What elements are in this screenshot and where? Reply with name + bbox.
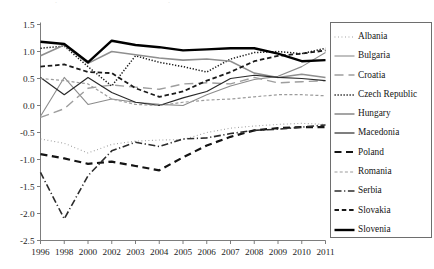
legend-item-label: Poland — [358, 148, 384, 157]
legend-item-label: Romania — [358, 167, 392, 176]
legend-line-swatch — [334, 186, 355, 196]
x-axis-tick-label: 2007 — [221, 247, 240, 257]
y-axis-tick-label: -0.5 — [20, 128, 35, 138]
y-axis-tick-label: -2.0 — [20, 209, 35, 219]
y-axis-tick-label: -2.5 — [20, 236, 35, 246]
legend-line-swatch — [334, 147, 355, 157]
legend-item-albania[interactable]: Albania — [334, 27, 431, 46]
x-axis-tick-label: 2008 — [245, 247, 264, 257]
series-line-poland — [41, 127, 326, 170]
legend-item-label: Albania — [358, 32, 387, 41]
legend-item-bulgaria[interactable]: Bulgaria — [334, 46, 431, 65]
series-line-slovenia — [41, 41, 326, 63]
y-axis-tick-labels: 1.51.00.50.0-0.5-1.0-1.5-2.0-2.5 — [20, 20, 35, 246]
x-axis-tick-label: 2011 — [316, 247, 334, 257]
series-line-serbia — [41, 125, 326, 219]
x-axis-tick-labels: 1996199820002002200320042005200620072008… — [31, 247, 335, 257]
series-line-albania — [41, 123, 326, 153]
x-axis-tick-label: 2005 — [174, 247, 193, 257]
legend-item-slovakia[interactable]: Slovakia — [334, 201, 431, 220]
series-layer — [41, 41, 326, 219]
legend-item-label: Macedonia — [358, 128, 399, 137]
y-axis-tick-label: 0.0 — [23, 101, 35, 111]
x-axis-tick-label: 2006 — [198, 247, 217, 257]
x-axis-tick-label: 2000 — [79, 247, 98, 257]
chart-figure: .. 1996199820002002200320042005200620072… — [0, 0, 434, 269]
x-axis-tick-label: 2010 — [293, 247, 312, 257]
legend-item-label: Czech Republic — [358, 90, 417, 99]
legend-item-label: Hungary — [358, 109, 391, 118]
y-axis-tick-label: 0.5 — [23, 74, 35, 84]
y-axis-tick-label: 1.5 — [23, 20, 35, 30]
series-line-czech-republic — [41, 46, 326, 86]
x-axis-tick-label: 1998 — [55, 247, 74, 257]
legend-line-swatch — [334, 167, 355, 177]
y-axis-tick-label: 1.0 — [23, 47, 35, 57]
legend-item-romania[interactable]: Romania — [334, 162, 431, 181]
x-axis-tick-label: 1996 — [31, 247, 50, 257]
legend-item-croatia[interactable]: Croatia — [334, 66, 431, 85]
y-axis-tick-label: -1.0 — [20, 155, 35, 165]
legend-item-label: Croatia — [358, 71, 385, 80]
x-axis-tick-label: 2009 — [269, 247, 288, 257]
legend-item-macedonia[interactable]: Macedonia — [334, 123, 431, 142]
x-axis-tick-label: 2004 — [150, 247, 169, 257]
legend-line-swatch — [334, 128, 355, 138]
x-axis-tick-label: 2003 — [126, 247, 145, 257]
legend-line-swatch — [334, 51, 355, 61]
y-axis-tick-label: -1.5 — [20, 182, 35, 192]
legend-item-czech-republic[interactable]: Czech Republic — [334, 85, 431, 104]
legend-line-swatch — [334, 205, 355, 215]
chart-legend: AlbaniaBulgariaCroatiaCzech RepublicHung… — [330, 22, 432, 238]
legend-line-swatch — [334, 109, 355, 119]
legend-item-serbia[interactable]: Serbia — [334, 181, 431, 200]
legend-item-label: Slovakia — [358, 206, 391, 215]
legend-item-poland[interactable]: Poland — [334, 143, 431, 162]
x-axis-tick-label: 2002 — [103, 247, 122, 257]
legend-line-swatch — [334, 90, 355, 100]
legend-item-hungary[interactable]: Hungary — [334, 104, 431, 123]
legend-item-label: Bulgaria — [358, 51, 390, 60]
legend-line-swatch — [334, 32, 355, 42]
legend-item-slovenia[interactable]: Slovenia — [334, 220, 431, 239]
series-line-macedonia — [41, 75, 326, 105]
legend-item-label: Slovenia — [358, 225, 391, 234]
legend-line-swatch — [334, 70, 355, 80]
legend-item-label: Serbia — [358, 186, 382, 195]
legend-line-swatch — [334, 225, 355, 235]
